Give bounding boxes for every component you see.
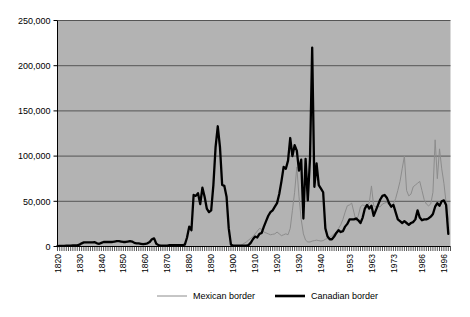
x-axis-tick-label: 1996 xyxy=(439,254,449,273)
x-axis-tick-label: 1840 xyxy=(97,254,107,273)
y-axis-tick-label: 200,000 xyxy=(18,61,51,71)
x-axis-tick-label: 1860 xyxy=(140,254,150,273)
chart-container: 050,000100,000150,000200,000250,000 1820… xyxy=(0,0,470,317)
legend-label: Mexican border xyxy=(193,291,255,301)
y-axis-tick-label: 100,000 xyxy=(18,151,51,161)
x-axis-tick-label: 1940 xyxy=(316,254,326,273)
x-axis-tick-label: 1880 xyxy=(184,254,194,273)
x-axis-tick-label: 1890 xyxy=(206,254,216,273)
x-axis-tick-label: 1870 xyxy=(162,254,172,273)
y-axis-tick-label: 50,000 xyxy=(23,197,51,207)
legend-label: Canadian border xyxy=(311,291,378,301)
x-axis-tick-label: 1830 xyxy=(75,254,85,273)
x-axis-tick-label: 1910 xyxy=(250,254,260,273)
y-axis-tick-label: 150,000 xyxy=(18,106,51,116)
plot-area-background xyxy=(58,21,451,247)
x-axis-tick-label: 1820 xyxy=(53,254,63,273)
x-axis-tick-label: 1953 xyxy=(345,254,355,273)
x-axis-tick-label: 1920 xyxy=(272,254,282,273)
line-chart: 050,000100,000150,000200,000250,000 1820… xyxy=(0,0,470,317)
y-axis-tick-label: 250,000 xyxy=(18,16,51,26)
x-axis-tick-label: 1973 xyxy=(389,254,399,273)
x-axis-tick-label: 1986 xyxy=(417,254,427,273)
x-axis-tick-label: 1963 xyxy=(367,254,377,273)
y-axis-tick-label: 0 xyxy=(45,242,50,252)
x-axis-tick-label: 1900 xyxy=(228,254,238,273)
x-axis-tick-label: 1930 xyxy=(294,254,304,273)
x-axis-tick-label: 1850 xyxy=(118,254,128,273)
